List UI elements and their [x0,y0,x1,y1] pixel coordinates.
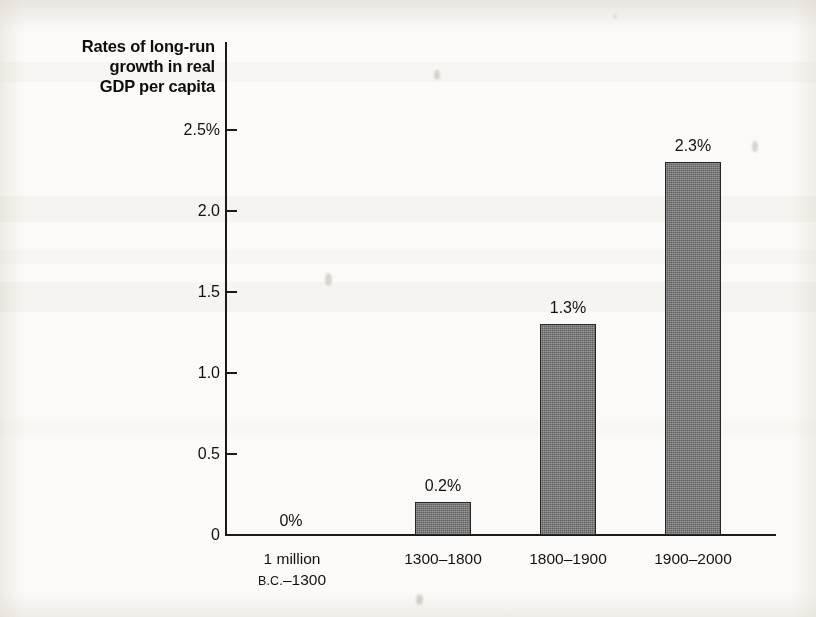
y-axis-label-2-0: 2.0 [198,203,220,219]
y-axis-tick [227,453,237,455]
chart-axis-title: Rates of long-run growth in real GDP per… [30,36,215,96]
scan-smudge [613,14,617,19]
bar-1800-1900 [540,324,596,535]
x-axis-label-1-years: –1300 [283,571,326,588]
bar-chart: Rates of long-run growth in real GDP per… [0,0,816,617]
x-axis-label-1-bc: B.C. [258,574,283,588]
scan-smudge [325,273,332,286]
x-axis-label-1-line-1: 1 million [236,548,348,569]
scan-smudge [416,594,423,605]
x-axis-label-2: 1300–1800 [377,548,509,569]
y-axis-label-0: 0 [211,527,220,543]
scan-smudge [752,141,758,152]
x-axis-label-4: 1900–2000 [627,548,759,569]
scan-smudge [434,70,440,80]
y-axis-line [225,42,227,536]
bar-value-label-4: 2.3% [659,138,727,154]
x-axis-label-1-line-2: B.C.–1300 [236,569,348,592]
bar-value-label-3: 1.3% [534,300,602,316]
y-axis-label-2-5: 2.5% [184,122,220,138]
bar-1900-2000 [665,162,721,535]
axis-title-line-1: Rates of long-run [30,36,215,56]
y-axis-label-1-0: 1.0 [198,365,220,381]
axis-title-line-2: growth in real [30,56,215,76]
x-axis-label-3: 1800–1900 [502,548,634,569]
y-axis-tick [227,210,237,212]
bar-1300-1800 [415,502,471,535]
y-axis-tick [227,291,237,293]
y-axis-tick [227,372,237,374]
axis-title-line-3: GDP per capita [30,76,215,96]
bar-value-label-1: 0% [263,513,319,529]
y-axis-tick [227,129,237,131]
y-axis-label-1-5: 1.5 [198,284,220,300]
y-axis-label-0-5: 0.5 [198,446,220,462]
x-axis-label-1: 1 million B.C.–1300 [236,548,348,592]
bar-value-label-2: 0.2% [409,478,477,494]
